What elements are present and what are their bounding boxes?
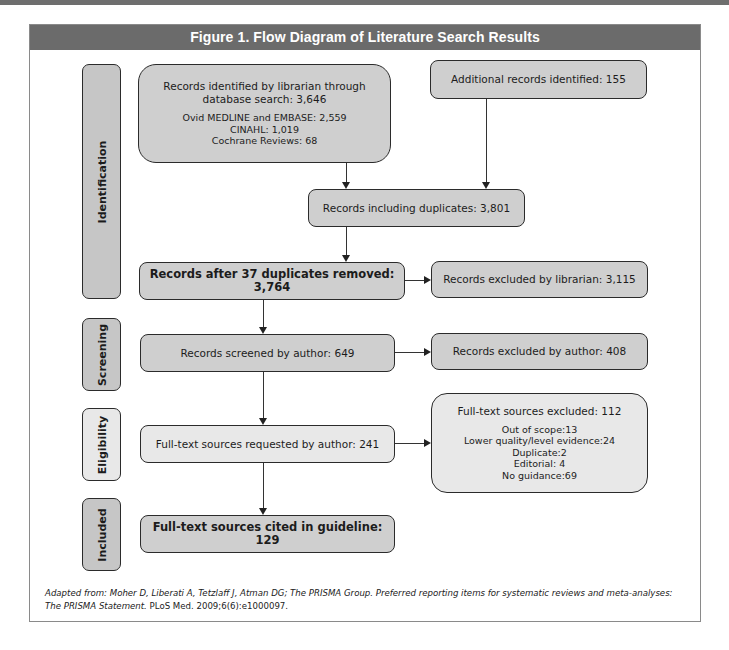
connector-line	[395, 443, 424, 444]
box-label: Full-text sources cited in guideline: 12…	[141, 521, 394, 547]
box-label: Records excluded by author: 408	[453, 345, 626, 358]
phase-label: Identification	[95, 140, 108, 223]
connector-line	[263, 372, 264, 418]
fulltext-excluded-box: Full-text sources excluded: 112 Out of s…	[431, 393, 648, 493]
phase-label: Eligibility	[95, 415, 108, 473]
phase-label: Included	[95, 508, 108, 561]
box-title-line2: database search: 3,646	[203, 93, 327, 106]
figure-title: Figure 1. Flow Diagram of Literature Sea…	[30, 25, 700, 50]
detail-line: Duplicate:2	[512, 447, 567, 459]
box-label: Records excluded by librarian: 3,115	[443, 273, 636, 286]
phase-included: Included	[82, 498, 121, 571]
box-label: Full-text sources requested by author: 2…	[156, 438, 379, 451]
detail-line: Lower quality/level evidence:24	[464, 435, 615, 447]
additional-records-box: Additional records identified: 155	[430, 60, 647, 99]
arrow-down-icon	[342, 255, 350, 262]
box-label: Records screened by author: 649	[180, 347, 354, 360]
arrow-down-icon	[259, 418, 267, 425]
arrow-right-icon	[424, 276, 431, 284]
including-duplicates-box: Records including duplicates: 3,801	[308, 189, 525, 227]
box-label: Additional records identified: 155	[451, 73, 626, 86]
arrow-down-icon	[259, 327, 267, 334]
phase-screening: Screening	[82, 318, 121, 391]
arrow-right-icon	[424, 439, 431, 447]
source-footnote: Adapted from: Moher D, Liberati A, Tetzl…	[45, 587, 685, 613]
after-duplicates-box: Records after 37 duplicates removed: 3,7…	[139, 262, 405, 300]
arrow-right-icon	[424, 348, 431, 356]
detail-line: Out of scope:13	[502, 424, 578, 436]
box-label: Records after 37 duplicates removed: 3,7…	[140, 268, 404, 294]
connector-line	[263, 300, 264, 327]
database-search-box: Records identified by librarian through …	[138, 64, 391, 163]
connector-line	[395, 352, 424, 353]
box-label: Records including duplicates: 3,801	[323, 202, 510, 215]
connector-line	[346, 163, 347, 182]
phase-eligibility: Eligibility	[82, 408, 121, 481]
box-title: Full-text sources excluded: 112	[458, 405, 622, 418]
box-title-line1: Records identified by librarian through	[163, 80, 365, 93]
connector-line	[263, 463, 264, 508]
top-bar	[0, 0, 729, 5]
detail-line: Cochrane Reviews: 68	[212, 135, 317, 147]
excluded-librarian-box: Records excluded by librarian: 3,115	[431, 261, 648, 298]
phase-label: Screening	[95, 323, 108, 385]
footnote-journal: PLoS Med. 2009;6(6):e1000097.	[147, 601, 288, 611]
excluded-author-box: Records excluded by author: 408	[431, 333, 648, 370]
fulltext-requested-box: Full-text sources requested by author: 2…	[140, 425, 395, 463]
detail-line: No guidance:69	[502, 470, 577, 482]
arrow-down-icon	[259, 508, 267, 515]
connector-line	[486, 99, 487, 182]
detail-line: Editorial: 4	[514, 458, 565, 470]
arrow-down-icon	[482, 182, 490, 189]
phase-identification: Identification	[82, 64, 121, 299]
screened-box: Records screened by author: 649	[140, 334, 395, 372]
detail-line: CINAHL: 1,019	[230, 124, 299, 136]
arrow-down-icon	[342, 182, 350, 189]
cited-box: Full-text sources cited in guideline: 12…	[140, 515, 395, 553]
connector-line	[405, 280, 424, 281]
detail-line: Ovid MEDLINE and EMBASE: 2,559	[182, 112, 346, 124]
connector-line	[346, 227, 347, 255]
footnote-citation: Adapted from: Moher D, Liberati A, Tetzl…	[45, 588, 673, 611]
